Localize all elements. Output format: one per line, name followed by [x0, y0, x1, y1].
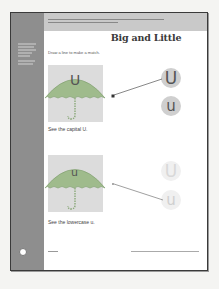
umbrella-illustration-lowercase: u: [48, 155, 103, 212]
choice-circle-lowercase-u[interactable]: u: [161, 190, 181, 210]
header-note: [48, 19, 168, 23]
instruction-text: Draw a line to make a match.: [48, 50, 100, 55]
header-band: [44, 13, 207, 31]
footer-unit: [48, 251, 58, 252]
caption-capital: See the capital U.: [48, 126, 87, 132]
worksheet-page: Big and Little Draw a line to make a mat…: [10, 12, 208, 271]
choice-circle-capital-u[interactable]: U: [161, 68, 181, 88]
choice-circle-capital-u[interactable]: U: [161, 161, 181, 181]
sidebar: [11, 13, 44, 270]
match-line-lowercase: [114, 184, 163, 200]
caption-lowercase: See the lowercase u.: [48, 219, 95, 225]
umbrella-illustration-capital: U: [48, 65, 103, 122]
choice-circle-lowercase-u[interactable]: u: [161, 96, 181, 116]
umbrella-icon: [43, 155, 107, 212]
match-line-capital: [114, 79, 162, 95]
line-start-dot: [112, 95, 115, 98]
sidebar-skills: [18, 43, 40, 65]
page-number-badge: [19, 248, 27, 256]
umbrella-letter: U: [70, 72, 80, 88]
footer-credit: [131, 251, 199, 252]
umbrella-letter: u: [71, 166, 78, 179]
page-title: Big and Little: [91, 32, 201, 43]
line-start-dot: [112, 183, 114, 185]
